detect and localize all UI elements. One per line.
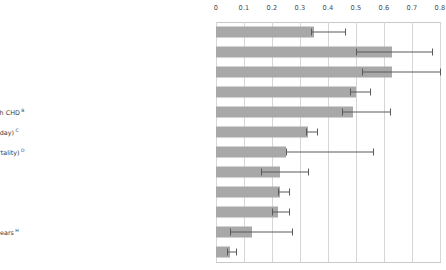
- error-bar-cap-low: [272, 209, 273, 216]
- error-bar-cap-low: [362, 69, 363, 76]
- error-bar-cap-high: [432, 49, 433, 56]
- x-tick-label: 0.8: [435, 4, 446, 12]
- chart-row: Social Relationships: Complex measures o…: [216, 62, 440, 82]
- value-bar: [216, 107, 353, 118]
- row-label-note: D: [19, 148, 24, 153]
- error-bar-cap-high: [373, 149, 374, 156]
- error-bar-cap-low: [311, 29, 312, 36]
- error-bar-line: [261, 172, 309, 173]
- chart-row: Flu Vaccine: Pneumococcal vaccination in…: [216, 142, 440, 162]
- error-bar-cap-low: [230, 229, 231, 236]
- error-bar-cap-high: [370, 89, 371, 96]
- error-bar-line: [342, 112, 390, 113]
- gridline: [440, 22, 441, 262]
- value-bar: [216, 147, 286, 158]
- chart-row: Physical Activity (controlling for adipo…: [216, 182, 440, 202]
- row-label-note: H: [14, 228, 19, 233]
- error-bar-cap-high: [345, 29, 346, 36]
- chart-row: Drug Treatment for Hypertension (vs. con…: [216, 222, 440, 242]
- x-tick-label: 0.2: [267, 4, 278, 12]
- axis-bottom-line: [216, 262, 441, 263]
- error-bar-cap-high: [440, 69, 441, 76]
- error-bar-cap-high: [308, 169, 309, 176]
- error-bar-line: [306, 132, 317, 133]
- error-bar-line: [278, 192, 289, 193]
- error-bar-line: [286, 152, 373, 153]
- chart-row: Social Relationships: Overall findings f…: [216, 22, 440, 42]
- x-tick-label: 0.5: [351, 4, 362, 12]
- chart-row: Smoking Cessation: Cease vs. Continue sm…: [216, 102, 440, 122]
- value-bar: [216, 27, 314, 38]
- x-axis-tick-labels: 00.10.20.30.40.50.60.70.8: [0, 0, 446, 22]
- error-bar-cap-low: [286, 149, 287, 156]
- error-bar-cap-high: [289, 209, 290, 216]
- x-tick-label: 0.4: [323, 4, 334, 12]
- error-bar-cap-low: [356, 49, 357, 56]
- chart-row: Smoking < 15 cigarettes daily A: [216, 82, 440, 102]
- chart-row: Social Relationships: High vs. low socia…: [216, 42, 440, 62]
- x-tick-label: 0: [214, 4, 218, 12]
- row-label-note: B: [20, 108, 25, 113]
- error-bar-line: [227, 252, 235, 253]
- error-bar-cap-low: [261, 169, 262, 176]
- error-bar-line: [362, 72, 440, 73]
- row-label-note: C: [14, 128, 19, 133]
- x-tick-label: 0.6: [379, 4, 390, 12]
- error-bar-cap-low: [227, 249, 228, 256]
- value-bar: [216, 187, 280, 198]
- plot-area: Social Relationships: Overall findings f…: [216, 22, 440, 262]
- error-bar-cap-low: [350, 89, 351, 96]
- error-bar-cap-low: [278, 189, 279, 196]
- error-bar-cap-high: [390, 109, 391, 116]
- x-tick-label: 0.7: [407, 4, 418, 12]
- error-bar-line: [272, 212, 289, 213]
- error-bar-line: [356, 52, 432, 53]
- chart-row: BMI: Lean vs. obese G: [216, 202, 440, 222]
- value-bar: [216, 127, 308, 138]
- error-bar-line: [230, 232, 292, 233]
- error-bar-line: [350, 92, 370, 93]
- error-bar-line: [311, 32, 345, 33]
- chart-row: Air Pollution: Low vs. high I: [216, 242, 440, 262]
- chart-row: Alcohol Consumption: Abstinence vs. Exce…: [216, 122, 440, 142]
- value-bar: [216, 87, 356, 98]
- value-bar: [216, 207, 278, 218]
- error-bar-cap-low: [306, 129, 307, 136]
- error-bar-cap-high: [236, 249, 237, 256]
- error-bar-cap-high: [292, 229, 293, 236]
- error-bar-cap-high: [317, 129, 318, 136]
- forest-bar-chart: 00.10.20.30.40.50.60.70.8 Social Relatio…: [0, 0, 446, 270]
- chart-rows: Social Relationships: Overall findings f…: [216, 22, 440, 262]
- chart-row: Cardiac Rehabilitation (exercise) for pa…: [216, 162, 440, 182]
- x-tick-label: 0.3: [295, 4, 306, 12]
- error-bar-cap-low: [342, 109, 343, 116]
- x-tick-label: 0.1: [239, 4, 250, 12]
- error-bar-cap-high: [289, 189, 290, 196]
